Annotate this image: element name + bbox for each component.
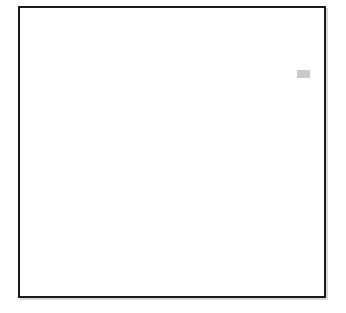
chart-plot-area (52, 82, 285, 210)
line-chart-svg (52, 82, 285, 210)
figure-header (28, 14, 320, 17)
recession-swatch (297, 70, 310, 78)
legend-recessions (297, 70, 314, 78)
figure-panel (18, 6, 326, 298)
